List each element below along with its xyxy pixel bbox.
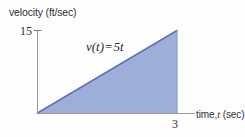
function-rhs: 5t [113,39,123,54]
velocity-time-chart: velocity (ft/sec) 15 3 v(t)=5t time,t (s… [0,0,245,137]
x-axis-tick-label-3: 3 [172,118,178,130]
x-axis-label-text: time, [196,109,217,120]
function-annotation: v(t)=5t [86,40,124,53]
x-axis-label-unit: (sec) [223,109,245,120]
y-axis-label: velocity (ft/sec) [9,7,76,18]
x-axis-label-variable: t [217,109,220,120]
x-axis-label: time,t (sec) [196,110,244,121]
function-equals-sign: = [104,39,113,54]
y-axis-tick-label-15: 15 [20,25,32,37]
function-lhs: v(t) [86,39,104,54]
